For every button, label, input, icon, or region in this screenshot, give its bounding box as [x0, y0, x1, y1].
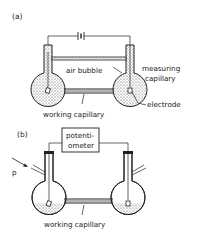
measuring-capillary-label-2: capillary: [145, 74, 176, 83]
working-capillary-label-a: working capillary: [43, 110, 105, 119]
pressure-label: p: [12, 168, 17, 177]
working-capillary-a: [64, 89, 114, 93]
left-side-arm: [31, 165, 45, 175]
panel-a-label: (a): [12, 12, 23, 21]
panel-a: (a): [12, 12, 181, 119]
potentiometer-label-1: potenti-: [66, 131, 95, 140]
panel-b-label: (b): [17, 130, 28, 139]
battery-circuit: [48, 32, 130, 52]
left-stopper: [44, 151, 54, 154]
electrode-label: electrode: [147, 100, 181, 109]
right-stopper: [123, 151, 133, 154]
pressure-arrow-icon: [12, 158, 28, 167]
air-bubble-label: air bubble: [66, 66, 103, 75]
left-flask-a: [31, 45, 65, 107]
right-side-arm: [132, 165, 146, 175]
right-flask-a: [113, 45, 147, 107]
right-flask-b: [111, 151, 146, 215]
right-electrode-b: [126, 201, 130, 206]
battery-icon: [76, 32, 86, 40]
working-capillary-pointer-b: [82, 205, 84, 215]
electro-osmosis-diagram: (a): [0, 0, 199, 240]
potentiometer: potenti- ometer: [49, 128, 128, 152]
panel-b: (b) potenti- ometer: [12, 128, 146, 229]
working-capillary-pointer-a: [82, 94, 84, 104]
right-electrode: [128, 88, 132, 93]
working-capillary-label-b: working capillary: [44, 220, 106, 229]
working-capillary-b: [64, 199, 113, 203]
left-flask-b: [31, 151, 66, 215]
measuring-capillary-label-1: measuring: [142, 64, 180, 73]
measuring-capillary: [52, 57, 126, 60]
air-bubble-pointer: [113, 67, 122, 73]
potentiometer-label-2: ometer: [68, 141, 94, 150]
